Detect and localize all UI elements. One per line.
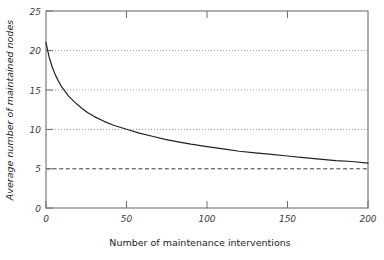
y-tick-label-15: 15 [30,86,42,96]
y-tick-label-25: 25 [30,7,42,17]
x-tick-label-50: 50 [121,214,133,224]
x-tick-label-100: 100 [198,214,215,224]
x-tick-label-0: 0 [43,214,49,224]
y-tick-label-20: 20 [30,46,42,56]
y-tick-label-10: 10 [30,125,42,135]
plot-background [46,11,368,208]
x-tick-label-150: 150 [279,214,296,224]
y-tick-label-0: 0 [35,204,41,214]
y-axis-title: Average number of maintained nodes [4,20,15,201]
x-axis-title: Number of maintenance interventions [109,237,290,248]
chart-figure: 25 20 15 10 5 0 0 50 100 150 200 Average… [0,0,384,260]
x-tick-label-200: 200 [359,214,376,224]
y-tick-label-5: 5 [35,164,41,174]
chart-svg: 25 20 15 10 5 0 0 50 100 150 200 Average… [0,0,384,260]
x-tick-labels: 0 50 100 150 200 [43,214,377,224]
y-tick-labels: 25 20 15 10 5 0 [30,7,42,214]
